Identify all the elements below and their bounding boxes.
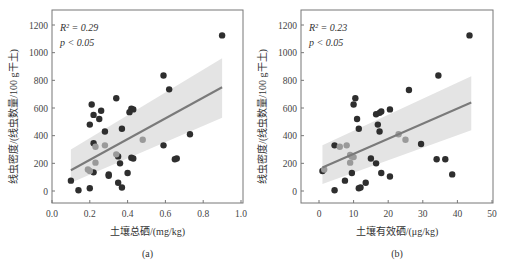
data-point [435, 72, 441, 78]
x-tick-label: 20 [383, 209, 393, 219]
data-point [219, 32, 225, 38]
data-point [350, 101, 356, 107]
data-point [352, 95, 358, 101]
data-point [418, 141, 424, 147]
data-point-highlight [92, 144, 98, 150]
data-point [87, 185, 93, 191]
y-tick-label: 600 [34, 104, 49, 114]
confidence-band [322, 76, 471, 184]
scatter-panel-b: 02004006008001000120001020304050R² = 0.2… [256, 10, 497, 260]
data-point-highlight [140, 137, 146, 143]
y-tick-label: 800 [283, 76, 298, 86]
x-tick-label: 1.0 [235, 209, 247, 219]
data-point [119, 126, 125, 132]
y-axis-label: 线虫密度/(线虫数量/100 g干土) [7, 49, 20, 184]
data-point [130, 155, 136, 161]
p-value-label: p < 0.05 [59, 37, 94, 48]
data-point [113, 95, 119, 101]
data-point [387, 173, 393, 179]
data-point-highlight [402, 137, 408, 143]
data-point-highlight [87, 168, 93, 174]
data-point [378, 170, 384, 176]
x-tick-label: 50 [487, 209, 497, 219]
data-point [363, 180, 369, 186]
data-point-highlight [347, 159, 353, 165]
data-point [357, 184, 363, 190]
y-axis-label: 线虫密度/(线虫数量/100 g干土) [256, 49, 269, 184]
data-point [106, 173, 112, 179]
data-point-highlight [102, 142, 108, 148]
y-tick-label: 800 [34, 76, 49, 86]
x-tick-label: 0.0 [46, 209, 58, 219]
data-point [90, 112, 96, 118]
x-tick-label: 30 [418, 209, 428, 219]
x-tick-label: 0.8 [197, 209, 209, 219]
y-tick-label: 400 [283, 131, 298, 141]
x-tick-label: 0.4 [122, 209, 134, 219]
data-point [172, 156, 178, 162]
data-point [117, 160, 123, 166]
data-point [442, 156, 448, 162]
data-point [342, 177, 348, 183]
x-tick-label: 10 [349, 209, 359, 219]
y-tick-label: 1200 [29, 21, 48, 31]
data-point [433, 156, 439, 162]
r-squared-label: R² = 0.23 [308, 22, 347, 33]
x-axis-label: 土壤总硒/(mg/kg) [110, 225, 185, 238]
y-tick-label: 0 [43, 187, 48, 197]
data-point [126, 109, 132, 115]
data-point [124, 170, 130, 176]
data-point [102, 128, 108, 134]
data-point [187, 131, 193, 137]
data-point [368, 155, 374, 161]
data-point [88, 101, 94, 107]
y-tick-label: 200 [283, 159, 298, 169]
data-point [406, 87, 412, 93]
data-point [375, 121, 381, 127]
y-tick-label: 200 [34, 159, 49, 169]
data-point [166, 86, 172, 92]
data-point-highlight [113, 151, 119, 157]
data-point [87, 121, 93, 127]
chart-canvas: 0200400600800100012000.00.20.40.60.81.0R… [0, 0, 509, 270]
scatter-panel-a: 0200400600800100012000.00.20.40.60.81.0R… [7, 10, 247, 260]
data-point [160, 142, 166, 148]
data-point-highlight [343, 142, 349, 148]
data-point [96, 116, 102, 122]
y-tick-label: 600 [283, 104, 298, 114]
x-tick-label: 0.2 [84, 209, 96, 219]
x-tick-label: 0 [317, 209, 322, 219]
data-point [160, 72, 166, 78]
data-point [349, 170, 355, 176]
x-axis-label: 土壤有效硒/(μg/kg) [356, 225, 439, 238]
data-point [356, 126, 362, 132]
regression-line [71, 87, 222, 170]
data-point [119, 184, 125, 190]
data-point [331, 187, 337, 193]
y-tick-label: 400 [34, 131, 49, 141]
panel-caption: (a) [142, 248, 153, 260]
data-point [376, 128, 382, 134]
r-squared-label: R² = 0.29 [59, 22, 98, 33]
data-point-highlight [337, 144, 343, 150]
data-point [387, 106, 393, 112]
p-value-label: p < 0.05 [308, 37, 343, 48]
data-point [75, 187, 81, 193]
data-point-highlight [92, 159, 98, 165]
y-tick-label: 1000 [278, 48, 297, 58]
data-point [449, 171, 455, 177]
data-point [378, 108, 384, 114]
data-point [354, 116, 360, 122]
data-point [466, 32, 472, 38]
data-point [98, 108, 104, 114]
data-point [68, 177, 74, 183]
panel-caption: (b) [391, 248, 403, 260]
x-tick-label: 40 [453, 209, 463, 219]
y-tick-label: 1200 [278, 21, 297, 31]
data-point [373, 160, 379, 166]
x-tick-label: 0.6 [159, 209, 171, 219]
y-tick-label: 1000 [29, 48, 48, 58]
y-tick-label: 0 [292, 187, 297, 197]
